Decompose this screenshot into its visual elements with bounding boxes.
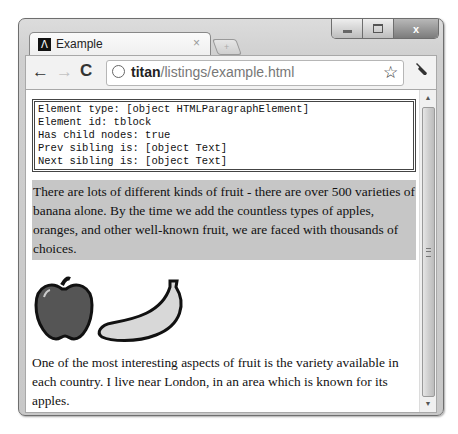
wrench-icon bbox=[414, 61, 430, 77]
output-line: Element type: [object HTMLParagraphEleme… bbox=[38, 103, 410, 116]
output-line: Has child nodes: true bbox=[38, 129, 410, 142]
minimize-button[interactable] bbox=[332, 19, 363, 38]
tab-example[interactable]: Λ Example × bbox=[29, 32, 211, 56]
plus-icon: + bbox=[224, 42, 229, 52]
tab-close-icon[interactable]: × bbox=[193, 36, 200, 50]
apple-icon bbox=[36, 279, 92, 339]
banana-icon bbox=[99, 281, 181, 341]
output-box: Element type: [object HTMLParagraphEleme… bbox=[32, 99, 416, 172]
scrollbar-thumb[interactable] bbox=[422, 107, 435, 397]
address-bar[interactable]: titan/listings/example.html ☆ bbox=[106, 60, 404, 86]
vertical-scrollbar[interactable]: ▲ ▼ bbox=[419, 90, 436, 412]
fruit-image-row bbox=[32, 273, 212, 345]
close-window-button[interactable]: x bbox=[394, 19, 438, 38]
fruit-images bbox=[32, 273, 416, 345]
page-content: Element type: [object HTMLParagraphEleme… bbox=[32, 90, 416, 413]
scroll-down-icon[interactable]: ▼ bbox=[420, 396, 436, 412]
close-icon: x bbox=[413, 23, 419, 35]
tab-title: Example bbox=[56, 37, 103, 51]
maximize-icon bbox=[373, 24, 383, 33]
url-path: /listings/example.html bbox=[161, 64, 295, 80]
favicon-icon: Λ bbox=[38, 38, 51, 51]
globe-icon bbox=[112, 65, 125, 78]
paragraph: One of the most interesting aspects of f… bbox=[32, 353, 416, 410]
output-line: Next sibling is: [object Text] bbox=[38, 155, 410, 168]
minimize-icon bbox=[343, 30, 352, 33]
grip-icon bbox=[426, 248, 431, 257]
page-viewport: Element type: [object HTMLParagraphEleme… bbox=[25, 89, 437, 413]
forward-button[interactable]: → bbox=[56, 62, 73, 82]
browser-toolbar: ← → C titan/listings/example.html ☆ bbox=[25, 55, 437, 90]
bookmark-star-icon[interactable]: ☆ bbox=[383, 62, 398, 83]
url-host: titan bbox=[131, 64, 161, 80]
wrench-menu-icon[interactable] bbox=[414, 61, 430, 81]
output-line: Element id: tblock bbox=[38, 116, 410, 129]
browser-window: x Λ Example × + ← → C titan/listings/exa… bbox=[18, 18, 444, 416]
maximize-button[interactable] bbox=[363, 19, 394, 38]
output-line: Prev sibling is: [object Text] bbox=[38, 142, 410, 155]
window-controls: x bbox=[331, 19, 439, 39]
scroll-up-icon[interactable]: ▲ bbox=[420, 90, 436, 106]
highlighted-paragraph: There are lots of different kinds of fru… bbox=[32, 180, 416, 260]
url-text[interactable]: titan/listings/example.html bbox=[131, 64, 294, 80]
back-button[interactable]: ← bbox=[32, 62, 49, 82]
reload-button[interactable]: C bbox=[80, 61, 92, 81]
new-tab-button[interactable]: + bbox=[212, 39, 242, 55]
